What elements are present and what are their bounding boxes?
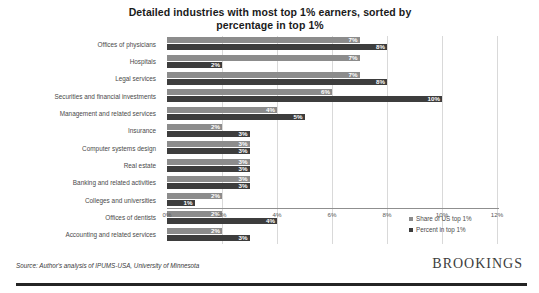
bar-value-label: 7%	[349, 36, 358, 43]
bar-share[interactable]: 3%	[167, 141, 250, 147]
bar-percent[interactable]: 8%	[167, 44, 387, 50]
bar-value-label: 2%	[211, 123, 220, 130]
x-tick-label: 4%	[273, 211, 282, 218]
x-tick-label: 10%	[436, 211, 448, 218]
bar-value-label: 3%	[239, 130, 248, 137]
bar-value-label: 5%	[294, 113, 303, 120]
bar-group: 7%8%	[167, 72, 497, 87]
bar-value-label: 8%	[376, 78, 385, 85]
bar-share[interactable]: 3%	[167, 176, 250, 182]
bar-value-label: 2%	[211, 61, 220, 68]
x-tick-label: 2%	[218, 211, 227, 218]
bar-share[interactable]: 7%	[167, 55, 360, 61]
bar-share[interactable]: 7%	[167, 72, 360, 78]
bar-percent[interactable]: 4%	[167, 218, 277, 224]
category-label: Management and related services	[0, 110, 156, 118]
bar-value-label: 10%	[428, 95, 440, 102]
category-label: Hospitals	[0, 58, 156, 66]
category-label: Offices of dentists	[0, 214, 156, 222]
bar-percent[interactable]: 3%	[167, 166, 250, 172]
x-tick-label: 0%	[163, 211, 172, 218]
source-note: Source: Author's analysis of IPUMS-USA, …	[16, 262, 199, 269]
bar-value-label: 4%	[266, 106, 275, 113]
bar-percent[interactable]: 2%	[167, 62, 222, 68]
category-label: Offices of physicians	[0, 41, 156, 49]
bar-value-label: 1%	[184, 199, 193, 206]
bar-group: 7%2%	[167, 55, 497, 70]
bar-share[interactable]: 6%	[167, 89, 332, 95]
bar-value-label: 8%	[376, 43, 385, 50]
x-axis-line	[167, 208, 499, 209]
bar-group: 3%3%	[167, 159, 497, 174]
bar-percent[interactable]: 3%	[167, 183, 250, 189]
bar-value-label: 3%	[239, 234, 248, 241]
category-label: Securities and financial investments	[0, 93, 156, 101]
bar-value-label: 3%	[239, 158, 248, 165]
bar-share[interactable]: 2%	[167, 228, 222, 234]
bar-value-label: 3%	[239, 182, 248, 189]
bar-share[interactable]: 2%	[167, 124, 222, 130]
bar-group: 7%8%	[167, 37, 497, 52]
bar-group: 2%1%	[167, 193, 497, 208]
category-label: Banking and related activities	[0, 179, 156, 187]
category-label: Real estate	[0, 162, 156, 170]
chart-title-line-2: percentage in top 1%	[60, 19, 480, 32]
legend-label: Percent in top 1%	[416, 224, 466, 235]
bar-group: 3%3%	[167, 176, 497, 191]
bar-percent[interactable]: 5%	[167, 114, 305, 120]
bar-share[interactable]: 4%	[167, 107, 277, 113]
brookings-logo: BROOKINGS	[432, 256, 523, 272]
bar-group: 6%10%	[167, 89, 497, 104]
legend-swatch-icon	[409, 217, 413, 221]
x-tick-label: 12%	[491, 211, 503, 218]
bar-group: 2%3%	[167, 124, 497, 139]
bar-share[interactable]: 3%	[167, 159, 250, 165]
bar-value-label: 6%	[321, 88, 330, 95]
bar-value-label: 2%	[211, 227, 220, 234]
chart-title-line-1: Detailed industries with most top 1% ear…	[60, 6, 480, 19]
bar-percent[interactable]: 8%	[167, 79, 387, 85]
category-label: Insurance	[0, 127, 156, 135]
category-label: Legal services	[0, 75, 156, 83]
category-label: Computer systems design	[0, 145, 156, 153]
bar-value-label: 2%	[211, 192, 220, 199]
legend-swatch-icon	[409, 228, 413, 232]
bar-percent[interactable]: 3%	[167, 148, 250, 154]
bar-share[interactable]: 2%	[167, 193, 222, 199]
bar-value-label: 7%	[349, 54, 358, 61]
bar-percent[interactable]: 10%	[167, 96, 442, 102]
bar-value-label: 7%	[349, 71, 358, 78]
bottom-rule	[16, 283, 527, 286]
x-tick-label: 8%	[383, 211, 392, 218]
bar-share[interactable]: 2%	[167, 211, 222, 217]
chart-figure: Detailed industries with most top 1% ear…	[0, 0, 539, 293]
x-tick-label: 6%	[328, 211, 337, 218]
legend-item[interactable]: Percent in top 1%	[409, 224, 472, 235]
category-label: Colleges and universities	[0, 197, 156, 205]
bar-percent[interactable]: 3%	[167, 131, 250, 137]
bar-value-label: 3%	[239, 140, 248, 147]
bar-percent[interactable]: 3%	[167, 235, 250, 241]
bar-percent[interactable]: 1%	[167, 200, 195, 206]
chart-title: Detailed industries with most top 1% ear…	[60, 6, 480, 32]
bar-value-label: 3%	[239, 165, 248, 172]
bar-value-label: 3%	[239, 147, 248, 154]
bar-value-label: 3%	[239, 175, 248, 182]
category-label: Accounting and related services	[0, 231, 156, 239]
bar-share[interactable]: 7%	[167, 37, 360, 43]
category-axis: Offices of physiciansHospitalsLegal serv…	[0, 36, 160, 244]
bar-group: 3%3%	[167, 141, 497, 156]
bar-group: 4%5%	[167, 107, 497, 122]
